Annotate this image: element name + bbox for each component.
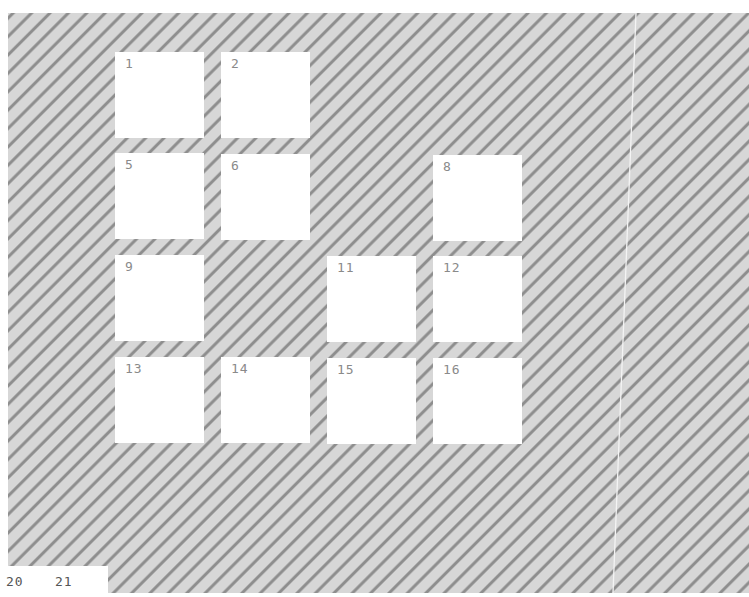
tile-9[interactable]: 9 [115, 255, 204, 341]
tile-16[interactable]: 16 [433, 358, 522, 444]
tile-13[interactable]: 13 [115, 357, 204, 443]
tile-14[interactable]: 14 [221, 357, 310, 443]
tile-label: 16 [443, 362, 461, 378]
tile-label: 12 [443, 260, 461, 276]
tile-1[interactable]: 1 [115, 52, 204, 138]
tile-6[interactable]: 6 [221, 154, 310, 240]
footer-label-21: 21 [55, 574, 73, 590]
tile-label: 13 [125, 361, 143, 377]
tile-11[interactable]: 11 [327, 256, 416, 342]
tile-label: 15 [337, 362, 355, 378]
tile-5[interactable]: 5 [115, 153, 204, 239]
tile-label: 5 [125, 157, 134, 173]
tile-label: 8 [443, 159, 452, 175]
tile-label: 11 [337, 260, 355, 276]
tile-label: 2 [231, 56, 240, 72]
footer-label-20: 20 [6, 574, 24, 590]
tile-8[interactable]: 8 [433, 155, 522, 241]
tile-12[interactable]: 12 [433, 256, 522, 342]
tile-label: 14 [231, 361, 249, 377]
tile-2[interactable]: 2 [221, 52, 310, 138]
tile-15[interactable]: 15 [327, 358, 416, 444]
hatched-workspace-bottom [108, 566, 749, 593]
tile-label: 9 [125, 259, 134, 275]
tile-label: 1 [125, 56, 134, 72]
tile-label: 6 [231, 158, 240, 174]
